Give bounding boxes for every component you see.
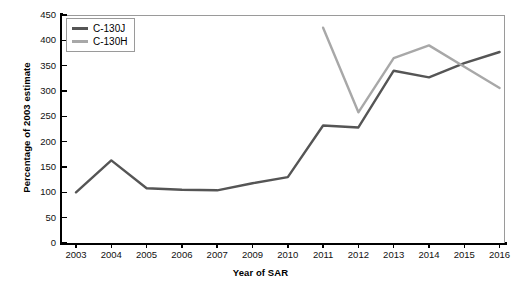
line-swatch-icon <box>72 27 88 30</box>
legend-item-label: C-130J <box>93 24 125 34</box>
x-tick-mark <box>499 243 501 248</box>
y-tick-mark <box>62 65 67 67</box>
x-tick-mark <box>111 243 113 248</box>
x-tick-mark <box>393 243 395 248</box>
y-tick-label: 450 <box>22 10 56 20</box>
y-tick-mark <box>62 141 67 143</box>
y-axis-tick-labels: 050100150200250300350400450 <box>18 0 56 289</box>
x-axis-title: Year of SAR <box>0 267 521 278</box>
y-tick-mark <box>62 14 67 16</box>
y-tick-label: 100 <box>22 187 56 197</box>
legend-item-c-130j[interactable]: C-130J <box>72 22 127 35</box>
x-tick-mark <box>216 243 218 248</box>
x-tick-mark <box>464 243 466 248</box>
x-tick-label: 2016 <box>478 250 521 260</box>
y-tick-mark <box>62 116 67 118</box>
legend-item-c-130h[interactable]: C-130H <box>72 35 127 48</box>
line-swatch-icon <box>72 40 88 43</box>
y-tick-label: 150 <box>22 162 56 172</box>
legend-item-label: C-130H <box>93 37 127 47</box>
x-tick-mark <box>358 243 360 248</box>
x-tick-mark <box>181 243 183 248</box>
x-tick-mark <box>252 243 254 248</box>
y-tick-mark <box>62 90 67 92</box>
y-tick-mark <box>62 242 67 244</box>
y-tick-label: 400 <box>22 35 56 45</box>
chart-legend: C-130JC-130H <box>66 18 135 52</box>
y-tick-label: 300 <box>22 86 56 96</box>
chart-container: Percentage of 2003 estimate 050100150200… <box>0 0 521 289</box>
y-tick-label: 350 <box>22 61 56 71</box>
y-tick-mark <box>62 217 67 219</box>
x-tick-mark <box>75 243 77 248</box>
x-tick-mark <box>428 243 430 248</box>
y-tick-label: 50 <box>22 213 56 223</box>
x-tick-mark <box>146 243 148 248</box>
y-tick-label: 0 <box>22 238 56 248</box>
x-tick-mark <box>322 243 324 248</box>
y-tick-mark <box>62 166 67 168</box>
x-tick-mark <box>287 243 289 248</box>
y-tick-mark <box>62 192 67 194</box>
y-tick-label: 250 <box>22 111 56 121</box>
y-tick-label: 200 <box>22 137 56 147</box>
